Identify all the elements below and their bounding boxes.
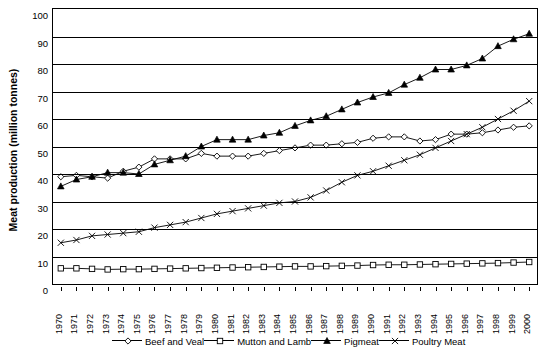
legend-item-poultry-meat[interactable]: Poultry Meat [379, 336, 465, 347]
x-tick-mark [233, 287, 234, 291]
x-tick-mark [357, 287, 358, 291]
y-axis-title-text: Meat production (million tonnes) [7, 69, 19, 232]
x-tick-mark [373, 287, 374, 291]
x-tick-mark [451, 287, 452, 291]
x-tick-label: 1996 [461, 314, 470, 334]
y-tick-label: 0 [24, 286, 48, 296]
x-tick-label: 1989 [351, 314, 360, 334]
series-poultry-meat [58, 98, 533, 246]
gridline [53, 64, 537, 65]
square-marker-icon [204, 336, 234, 346]
gridline [53, 37, 537, 38]
y-tick-label: 40 [24, 176, 48, 186]
x-tick-mark [404, 287, 405, 291]
y-tick-label: 30 [24, 204, 48, 214]
x-tick-label: 1985 [289, 314, 298, 334]
legend-label: Poultry Meat [412, 336, 465, 347]
x-tick-label: 1982 [242, 314, 251, 334]
series-mutton-and-lamb [58, 259, 532, 272]
x-tick-mark [389, 287, 390, 291]
x-tick-label: 1988 [336, 314, 345, 334]
x-tick-mark [279, 287, 280, 291]
y-tick-label: 20 [24, 231, 48, 241]
x-tick-mark [201, 287, 202, 291]
x-tick-label: 1993 [414, 314, 423, 334]
x-tick-mark [217, 287, 218, 291]
x-tick-label: 1995 [445, 314, 454, 334]
x-tick-mark [248, 287, 249, 291]
meat-production-chart: Meat production (million tonnes) 0102030… [0, 0, 558, 352]
x-tick-label: 1979 [195, 314, 204, 334]
x-tick-mark [342, 287, 343, 291]
x-tick-label: 1987 [320, 314, 329, 334]
x-tick-mark [123, 287, 124, 291]
x-tick-mark [186, 287, 187, 291]
legend-label: Beef and Veal [145, 336, 204, 347]
x-tick-label: 1970 [55, 314, 64, 334]
x-tick-mark [420, 287, 421, 291]
x-axis-tick-labels: 1970197119721973197419751976197719781979… [52, 287, 538, 335]
x-tick-label: 1973 [102, 314, 111, 334]
x-tick-label: 1998 [492, 314, 501, 334]
x-tick-mark [529, 287, 530, 291]
chart-legend: Beef and VealMutton and LambPigmeatPoult… [112, 332, 452, 350]
x-tick-mark [326, 287, 327, 291]
legend-item-beef-and-veal[interactable]: Beef and Veal [112, 336, 204, 347]
gridline [53, 257, 537, 258]
x-tick-mark [170, 287, 171, 291]
x-tick-mark [154, 287, 155, 291]
x-tick-mark [92, 287, 93, 291]
x-tick-mark [311, 287, 312, 291]
x-tick-label: 1980 [211, 314, 220, 334]
legend-item-mutton-and-lamb[interactable]: Mutton and Lamb [204, 336, 311, 347]
diamond-marker-icon [112, 336, 142, 346]
x-tick-mark [498, 287, 499, 291]
gridline [53, 119, 537, 120]
cross-marker-icon [379, 336, 409, 346]
y-tick-label: 100 [24, 11, 48, 21]
y-tick-label: 80 [24, 66, 48, 76]
x-tick-label: 1978 [180, 314, 189, 334]
x-tick-label: 1981 [227, 314, 236, 334]
x-tick-mark [139, 287, 140, 291]
y-tick-label: 90 [24, 39, 48, 49]
gridline [53, 229, 537, 230]
x-tick-label: 1972 [86, 314, 95, 334]
x-tick-label: 1997 [476, 314, 485, 334]
x-tick-mark [76, 287, 77, 291]
y-tick-label: 60 [24, 121, 48, 131]
y-tick-label: 10 [24, 259, 48, 269]
plot-area [52, 8, 538, 285]
x-tick-label: 2000 [523, 314, 532, 334]
legend-label: Mutton and Lamb [237, 336, 311, 347]
x-tick-label: 1976 [148, 314, 157, 334]
gridline [53, 202, 537, 203]
y-tick-label: 70 [24, 94, 48, 104]
x-tick-mark [295, 287, 296, 291]
triangle-marker-icon [311, 336, 341, 346]
y-axis-tick-labels: 0102030405060708090100 [20, 8, 48, 285]
x-tick-label: 1994 [430, 314, 439, 334]
series-beef-and-veal [58, 123, 533, 181]
x-tick-label: 1992 [398, 314, 407, 334]
x-tick-label: 1977 [164, 314, 173, 334]
x-tick-mark [264, 287, 265, 291]
legend-item-pigmeat[interactable]: Pigmeat [311, 336, 379, 347]
x-tick-mark [467, 287, 468, 291]
x-tick-mark [514, 287, 515, 291]
x-tick-mark [61, 287, 62, 291]
gridline [53, 147, 537, 148]
gridline [53, 92, 537, 93]
x-tick-label: 1975 [133, 314, 142, 334]
x-tick-label: 1991 [383, 314, 392, 334]
x-tick-label: 1984 [273, 314, 282, 334]
x-tick-mark [482, 287, 483, 291]
x-tick-mark [108, 287, 109, 291]
x-tick-mark [436, 287, 437, 291]
x-tick-label: 1990 [367, 314, 376, 334]
x-tick-label: 1971 [70, 314, 79, 334]
x-tick-label: 1986 [305, 314, 314, 334]
x-tick-label: 1999 [508, 314, 517, 334]
x-tick-label: 1983 [258, 314, 267, 334]
legend-label: Pigmeat [344, 336, 379, 347]
